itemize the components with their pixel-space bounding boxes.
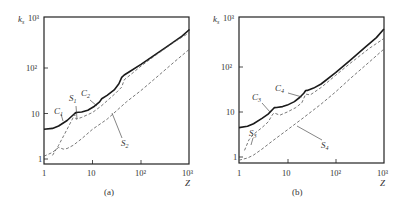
x-ticks	[93, 160, 142, 164]
plot-frame	[44, 17, 189, 164]
x-axis-label: Z	[380, 178, 386, 188]
y-tick-label-100: 10²	[26, 63, 38, 73]
panel-b-chart: ks 10³ 10² 10 1 1 10 10² 10³ Z (b) C3 C4…	[213, 13, 389, 197]
data-curves	[44, 30, 190, 157]
y-tick-label-1: 1	[38, 154, 42, 164]
x-tick-label-100: 10²	[135, 168, 147, 178]
curve-s4	[239, 49, 384, 160]
label-s2: S2	[121, 138, 129, 149]
x-tick-label-1: 1	[42, 168, 46, 178]
x-tick-label-1000: 10³	[377, 168, 389, 178]
y-tick-label-10: 10	[31, 109, 40, 119]
label-c1: C1	[54, 106, 63, 117]
panel-caption: (b)	[292, 187, 303, 197]
x-tick-label-10: 10	[87, 168, 96, 178]
label-s1: S1	[69, 93, 77, 104]
x-axis-label: Z	[185, 178, 191, 188]
y-axis-label: ks	[18, 14, 25, 25]
y-tick-label-10: 10	[226, 107, 235, 117]
curve-labels	[61, 100, 122, 138]
curve-solid	[239, 29, 384, 128]
x-tick-label-1000: 10³	[182, 168, 194, 178]
x-tick-label-100: 10²	[330, 168, 342, 178]
y-tick-label-1: 1	[233, 152, 237, 162]
data-curves	[239, 29, 384, 160]
label-c2: C2	[81, 88, 90, 99]
label-c3: C3	[252, 92, 261, 103]
plot-frame	[239, 17, 384, 163]
y-axis-label: ks	[213, 14, 220, 25]
y-ticks	[239, 67, 243, 157]
panel-a-chart: ks 10³ 10² 10 1 1 10 10² 10³ Z (a) C1 S1…	[18, 13, 194, 197]
figure: ks 10³ 10² 10 1 1 10 10² 10³ Z (a) C1 S1…	[0, 0, 406, 208]
label-s4: S4	[321, 140, 329, 151]
x-tick-label-1: 1	[237, 168, 241, 178]
curve-solid	[44, 30, 190, 130]
curve-s2	[44, 49, 190, 156]
label-c4: C4	[275, 83, 284, 94]
x-ticks	[288, 159, 336, 163]
label-s3: S3	[249, 128, 257, 139]
y-tick-label-1000: 10³	[28, 13, 40, 23]
panel-caption: (a)	[104, 187, 114, 197]
x-tick-label-10: 10	[282, 168, 291, 178]
y-tick-label-100: 10²	[221, 62, 233, 72]
y-tick-label-1000: 10³	[223, 13, 235, 23]
curve-s3	[245, 39, 384, 151]
